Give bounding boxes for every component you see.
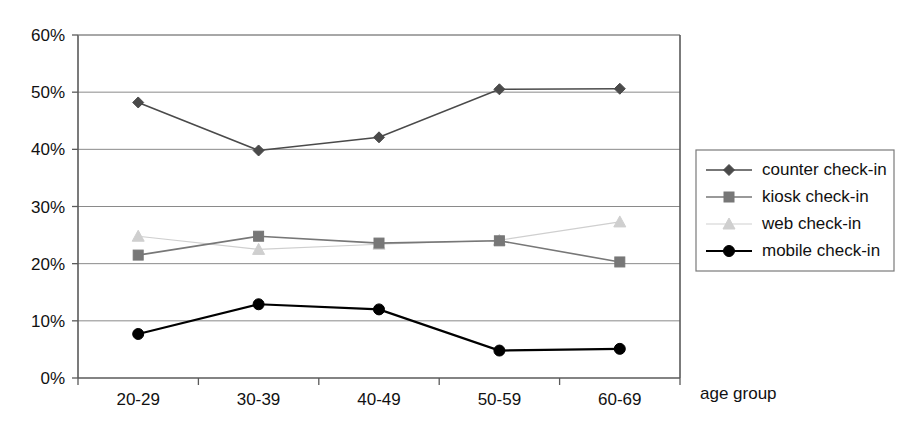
y-tick-label: 30% xyxy=(31,198,65,217)
data-point-square-marker xyxy=(615,257,625,267)
x-tick-label: 30-39 xyxy=(237,390,280,409)
data-point-square-marker xyxy=(254,231,264,241)
legend-item-label: counter check-in xyxy=(762,160,887,179)
x-tick-label: 20-29 xyxy=(116,390,159,409)
data-point-circle-marker xyxy=(253,299,264,310)
data-point-circle-marker xyxy=(374,304,385,315)
y-tick-label: 10% xyxy=(31,312,65,331)
legend-item-label: kiosk check-in xyxy=(762,187,869,206)
legend-item-label: web check-in xyxy=(761,214,861,233)
legend-item-label: mobile check-in xyxy=(762,241,880,260)
line-chart: 0%10%20%30%40%50%60% 20-2930-3940-4950-5… xyxy=(0,0,904,447)
x-tick-label: 60-69 xyxy=(598,390,641,409)
y-tick-label: 0% xyxy=(40,369,65,388)
y-tick-label: 40% xyxy=(31,140,65,159)
chart-container: 0%10%20%30%40%50%60% 20-2930-3940-4950-5… xyxy=(0,0,904,447)
data-point-circle-marker xyxy=(494,345,505,356)
x-tick-label: 40-49 xyxy=(357,390,400,409)
y-tick-label: 50% xyxy=(31,83,65,102)
data-point-square-marker xyxy=(374,238,384,248)
y-tick-label: 60% xyxy=(31,26,65,45)
x-tick-label: 50-59 xyxy=(478,390,521,409)
chart-legend: counter check-inkiosk check-inweb check-… xyxy=(696,150,894,271)
legend-swatch-circle-marker xyxy=(724,246,735,257)
data-point-circle-marker xyxy=(614,343,625,354)
data-point-circle-marker xyxy=(133,328,144,339)
data-point-square-marker xyxy=(494,236,504,246)
legend-swatch-square-marker xyxy=(724,192,734,202)
data-point-square-marker xyxy=(133,250,143,260)
y-tick-label: 20% xyxy=(31,255,65,274)
x-axis-title: age group xyxy=(700,384,777,403)
